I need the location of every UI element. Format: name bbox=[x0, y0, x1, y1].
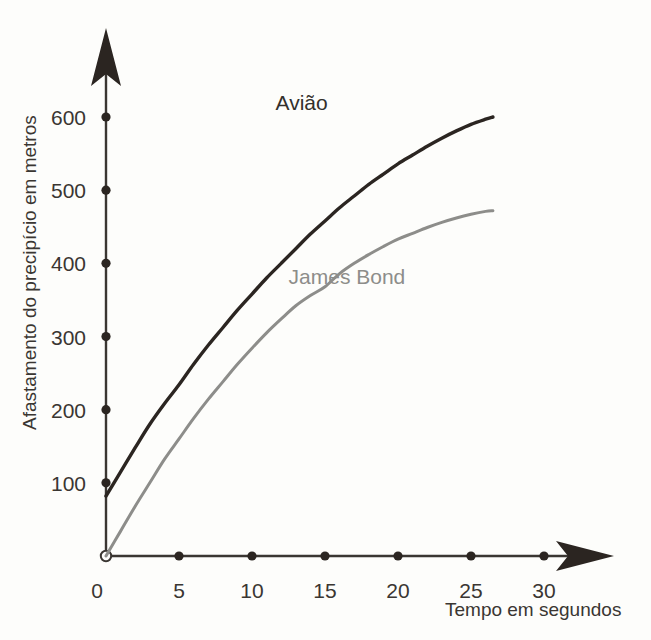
x-tick-label: 0 bbox=[91, 579, 103, 602]
y-tick-label: 300 bbox=[51, 326, 86, 349]
x-tick-dot bbox=[320, 551, 329, 560]
series-label-avio: Avião bbox=[276, 91, 328, 114]
x-tick-label: 20 bbox=[386, 579, 409, 602]
series-annotations: AviãoJames Bond bbox=[276, 91, 406, 288]
y-tick-dot bbox=[101, 405, 110, 414]
series-curves bbox=[106, 117, 493, 556]
y-tick-label: 400 bbox=[51, 252, 86, 275]
x-tick-label: 15 bbox=[313, 579, 336, 602]
x-tick-label: 10 bbox=[240, 579, 263, 602]
x-axis-title: Tempo em segundos bbox=[445, 599, 621, 620]
chart-page: 100200300400500600 051015202530 AviãoJam… bbox=[0, 0, 651, 640]
series-label-james-bond: James Bond bbox=[289, 265, 406, 288]
x-tick-dot bbox=[393, 551, 402, 560]
x-tick-dot bbox=[247, 551, 256, 560]
y-axis-tick-labels: 100200300400500600 bbox=[51, 106, 86, 495]
y-tick-label: 500 bbox=[51, 179, 86, 202]
y-tick-dot bbox=[101, 186, 110, 195]
y-tick-label: 600 bbox=[51, 106, 86, 129]
y-tick-dot bbox=[101, 332, 110, 341]
line-chart: 100200300400500600 051015202530 AviãoJam… bbox=[0, 0, 651, 640]
y-axis-title: Afastamento do precipício em metros bbox=[19, 115, 40, 430]
x-tick-dot bbox=[539, 551, 548, 560]
y-tick-dot bbox=[101, 478, 110, 487]
y-tick-label: 100 bbox=[51, 472, 86, 495]
series-curve-avio bbox=[106, 117, 493, 496]
x-tick-label: 5 bbox=[173, 579, 185, 602]
series-curve-james-bond bbox=[106, 211, 493, 556]
y-tick-dot bbox=[101, 112, 110, 121]
x-tick-dot bbox=[174, 551, 183, 560]
y-tick-label: 200 bbox=[51, 399, 86, 422]
y-tick-dot bbox=[101, 259, 110, 268]
x-tick-dot bbox=[466, 551, 475, 560]
